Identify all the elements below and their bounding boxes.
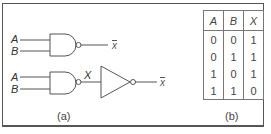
cell-a: 0 [204, 31, 224, 49]
table-row: 0 1 1 [204, 48, 264, 65]
table-row: 1 0 1 [204, 65, 264, 82]
input-a-label-1: A [11, 34, 18, 45]
header-x: X [244, 11, 264, 31]
output-label-1: x [112, 41, 117, 51]
nand-bubble-1 [76, 43, 81, 48]
table-row: 0 0 1 [204, 31, 264, 49]
input-a-label-2: A [11, 72, 18, 83]
cell-x: 0 [244, 82, 264, 100]
output-label-2: x [160, 78, 165, 88]
cell-b: 1 [224, 48, 244, 65]
input-b-label-2: B [11, 84, 18, 95]
nand-gate-2-icon [50, 72, 76, 94]
caption-b: (b) [225, 111, 238, 122]
truth-table: A B X 0 0 1 0 1 1 1 0 1 1 1 0 [203, 10, 264, 100]
cell-a: 1 [204, 82, 224, 100]
cell-b: 1 [224, 82, 244, 100]
nand-gate-1-icon [50, 34, 76, 56]
inverter-gate-icon [101, 66, 130, 98]
inverter-bubble [131, 80, 136, 85]
caption-a: (a) [57, 111, 70, 122]
input-b-label-1: B [11, 46, 18, 57]
header-a: A [204, 11, 224, 31]
cell-a: 0 [204, 48, 224, 65]
cell-x: 1 [244, 31, 264, 49]
nand-bubble-2 [76, 80, 81, 85]
cell-x: 1 [244, 65, 264, 82]
header-b: B [224, 11, 244, 31]
cell-b: 0 [224, 31, 244, 49]
intermediate-label: X [84, 70, 91, 81]
table-row: 1 1 0 [204, 82, 264, 100]
table-header-row: A B X [204, 11, 264, 31]
cell-b: 0 [224, 65, 244, 82]
cell-x: 1 [244, 48, 264, 65]
cell-a: 1 [204, 65, 224, 82]
